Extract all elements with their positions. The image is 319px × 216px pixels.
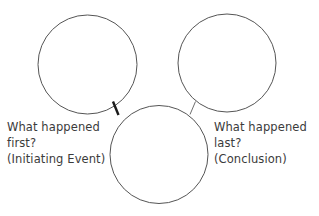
first-event-label: What happened first? (Initiating Event) [7, 120, 105, 167]
sequence-diagram [0, 0, 319, 216]
diagram-canvas: What happened first? (Initiating Event) … [0, 0, 319, 216]
connector-middle-to-last [190, 102, 196, 115]
first-event-label-line3: (Initiating Event) [7, 152, 105, 168]
last-event-label-line2: last? [214, 136, 307, 152]
last-event-label: What happened last? (Conclusion) [214, 120, 307, 167]
last-event-label-line1: What happened [214, 120, 307, 136]
last-event-label-line3: (Conclusion) [214, 152, 307, 168]
first-event-label-line2: first? [7, 136, 105, 152]
last-event-circle [178, 14, 276, 112]
first-event-circle [38, 15, 137, 114]
middle-event-circle [110, 106, 208, 204]
first-event-label-line1: What happened [7, 120, 105, 136]
